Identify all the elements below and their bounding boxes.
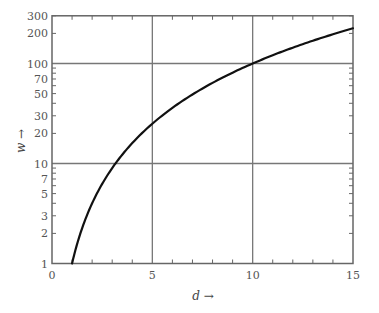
x-tick-label: 5 [149,269,156,282]
x-tick-label: 0 [49,269,56,282]
x-axis-label: d → [192,289,214,303]
x-tick-label: 15 [346,269,360,282]
plot-frame [52,16,353,264]
y-tick-labels: 123571020305070100200300 [27,10,48,271]
chart: 051015 123571020305070100200300 d → w → [0,0,379,313]
y-tick-label: 100 [27,58,48,71]
y-tick-label: 200 [27,27,48,40]
y-tick-label: 10 [34,158,48,171]
axis-ticks [52,16,353,264]
y-tick-label: 300 [27,10,48,23]
y-axis-label: w → [14,129,28,153]
y-tick-label: 20 [34,127,48,140]
y-tick-label: 3 [41,210,48,223]
y-tick-label: 70 [34,73,48,86]
y-tick-label: 30 [34,110,48,123]
y-tick-label: 5 [41,188,48,201]
y-tick-label: 7 [41,173,48,186]
x-tick-label: 10 [246,269,260,282]
y-tick-label: 50 [34,88,48,101]
grid-lines [52,16,353,264]
y-tick-label: 2 [41,227,48,240]
x-tick-labels: 051015 [49,269,361,282]
y-tick-label: 1 [41,258,48,271]
